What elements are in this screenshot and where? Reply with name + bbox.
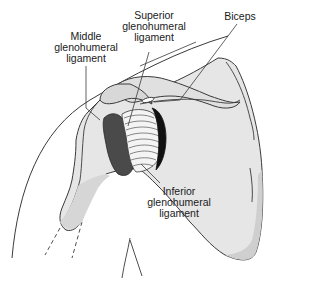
inferior-glenohumeral-label: Inferior glenohumeral ligament (142, 186, 216, 219)
label-line: ligament (142, 208, 216, 219)
humerus-shaft-dashed-left (45, 228, 60, 255)
label-line: ligament (50, 53, 122, 64)
middle-glenohumeral-label: Middle glenohumeral ligament (50, 31, 122, 64)
thorax-line-branch (130, 240, 142, 276)
superior-glenohumeral-label: Superior glenohumeral ligament (117, 10, 191, 43)
biceps-label: Biceps (220, 11, 260, 22)
thorax-line (122, 238, 130, 278)
label-line: Biceps (220, 11, 260, 22)
label-line: ligament (117, 32, 191, 43)
